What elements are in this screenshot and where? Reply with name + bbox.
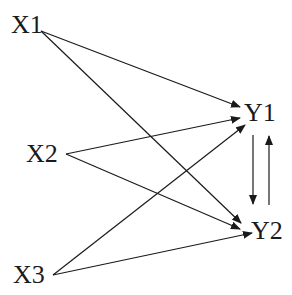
edge-x2-y2 (66, 154, 240, 229)
edge-x3-y2 (53, 233, 252, 275)
node-y1: Y1 (244, 100, 276, 126)
edge-x1-y2 (41, 31, 241, 223)
edge-x1-y1 (41, 31, 240, 107)
node-y2: Y2 (251, 218, 283, 244)
node-x3: X3 (13, 262, 45, 288)
node-x2: X2 (26, 141, 58, 167)
node-x1: X1 (11, 12, 43, 38)
